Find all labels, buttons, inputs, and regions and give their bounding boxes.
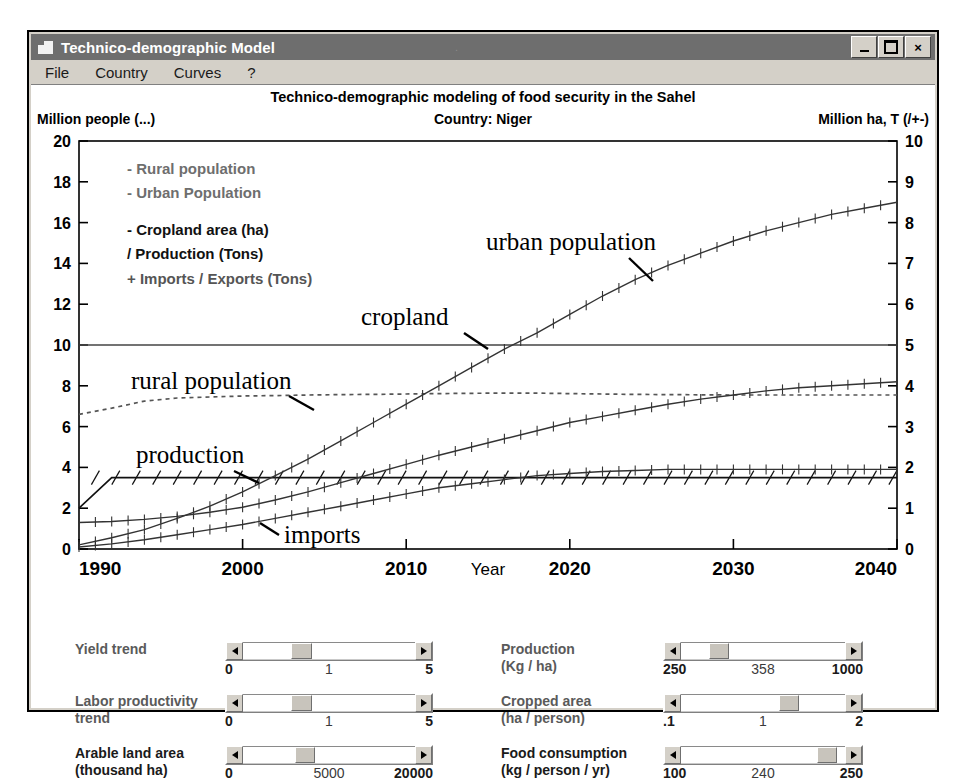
minimize-button[interactable] bbox=[851, 36, 877, 58]
slider-right-arrow-button[interactable] bbox=[415, 642, 432, 660]
control-label-line1: Production bbox=[501, 641, 663, 658]
control-label-line2: (thousand ha) bbox=[75, 762, 225, 779]
triangle-left-icon bbox=[670, 751, 676, 759]
menu-item-file[interactable]: File bbox=[45, 64, 69, 81]
slider-thumb[interactable] bbox=[295, 747, 316, 763]
y-tick-label: 8 bbox=[62, 378, 71, 395]
y2-tick-label: 1 bbox=[905, 500, 914, 517]
window-button-group: × bbox=[851, 36, 931, 58]
slider-min-label: .1 bbox=[663, 713, 675, 729]
controls-panel: Yield trend015Labor productivitytrend015… bbox=[31, 641, 939, 761]
slider[interactable] bbox=[663, 641, 863, 661]
slider-left-arrow-button[interactable] bbox=[664, 746, 681, 764]
y2-tick-label: 8 bbox=[905, 215, 914, 232]
x-tick-label: 2030 bbox=[712, 558, 754, 579]
slider[interactable] bbox=[663, 745, 863, 765]
slider-group: 2503581000 bbox=[663, 641, 863, 678]
control-group: Arable land area(thousand ha)0500020000 bbox=[75, 745, 433, 782]
x-tick-label: 2000 bbox=[221, 558, 263, 579]
control-label-line2: (kg / person / yr) bbox=[501, 762, 663, 779]
x-tick-label: 1990 bbox=[79, 558, 121, 579]
y2-tick-label: 2 bbox=[905, 459, 914, 476]
slider-right-arrow-button[interactable] bbox=[845, 694, 862, 712]
annotation-urban: urban population bbox=[486, 228, 657, 255]
slider[interactable] bbox=[225, 693, 433, 713]
y2-tick-label: 4 bbox=[905, 378, 914, 395]
annotation-imports: imports bbox=[284, 521, 360, 548]
menu-item-country[interactable]: Country bbox=[95, 64, 148, 81]
x-tick-label: 2020 bbox=[549, 558, 591, 579]
slider-track[interactable] bbox=[243, 746, 415, 764]
x-tick-label: 2010 bbox=[385, 558, 427, 579]
triangle-right-icon bbox=[851, 699, 857, 707]
slider-right-arrow-button[interactable] bbox=[415, 746, 432, 764]
slider-track[interactable] bbox=[243, 642, 415, 660]
chart-plot: 0246810121416182001234567891019902000201… bbox=[31, 131, 939, 651]
y-tick-label: 18 bbox=[53, 174, 71, 191]
annotation-rural: rural population bbox=[131, 367, 292, 394]
menu-item-help[interactable]: ? bbox=[247, 64, 255, 81]
y2-tick-label: 7 bbox=[905, 255, 914, 272]
slider-mid-label: 5000 bbox=[313, 765, 344, 781]
annotation-cropland: cropland bbox=[361, 303, 449, 330]
slider-thumb[interactable] bbox=[291, 643, 312, 659]
y-tick-label: 12 bbox=[53, 296, 71, 313]
slider-min-label: 250 bbox=[663, 661, 686, 677]
control-label-line1: Food consumption bbox=[501, 745, 663, 762]
y-tick-label: 16 bbox=[53, 215, 71, 232]
slider-max-label: 1000 bbox=[832, 661, 863, 677]
slider-scale: 015 bbox=[225, 713, 433, 730]
slider-thumb[interactable] bbox=[709, 643, 729, 659]
slider-track[interactable] bbox=[681, 694, 845, 712]
slider-left-arrow-button[interactable] bbox=[226, 694, 243, 712]
slider-max-label: 2 bbox=[855, 713, 863, 729]
slider[interactable] bbox=[663, 693, 863, 713]
slider-mid-label: 358 bbox=[751, 661, 774, 677]
slider-min-label: 0 bbox=[225, 765, 233, 781]
maximize-button[interactable] bbox=[878, 36, 904, 58]
y2-tick-label: 6 bbox=[905, 296, 914, 313]
slider-track[interactable] bbox=[243, 694, 415, 712]
control-group: Production(Kg / ha)2503581000 bbox=[501, 641, 863, 678]
y-tick-label: 20 bbox=[53, 133, 71, 150]
y2-tick-label: 10 bbox=[905, 133, 923, 150]
slider-right-arrow-button[interactable] bbox=[845, 642, 862, 660]
slider-mid-label: 240 bbox=[751, 765, 774, 781]
slider-left-arrow-button[interactable] bbox=[664, 694, 681, 712]
slider-thumb[interactable] bbox=[817, 747, 837, 763]
slider-left-arrow-button[interactable] bbox=[226, 642, 243, 660]
control-label-line2: (ha / person) bbox=[501, 710, 663, 727]
slider-thumb[interactable] bbox=[291, 695, 312, 711]
triangle-left-icon bbox=[232, 647, 238, 655]
slider-group: 015 bbox=[225, 641, 433, 678]
slider-scale: 2503581000 bbox=[663, 661, 863, 678]
slider-min-label: 100 bbox=[663, 765, 686, 781]
y-tick-label: 10 bbox=[53, 337, 71, 354]
slider-scale: 0500020000 bbox=[225, 765, 433, 782]
slider-right-arrow-button[interactable] bbox=[415, 694, 432, 712]
control-label: Production(Kg / ha) bbox=[501, 641, 663, 675]
y-tick-label: 4 bbox=[62, 459, 71, 476]
slider-right-arrow-button[interactable] bbox=[845, 746, 862, 764]
y2-tick-label: 0 bbox=[905, 541, 914, 558]
control-label-line1: Yield trend bbox=[75, 641, 225, 658]
slider-track[interactable] bbox=[681, 642, 845, 660]
slider-scale: .112 bbox=[663, 713, 863, 730]
slider[interactable] bbox=[225, 745, 433, 765]
y2-tick-label: 3 bbox=[905, 419, 914, 436]
slider-mid-label: 1 bbox=[759, 713, 767, 729]
legend-item-2: - Cropland area (ha) bbox=[127, 221, 269, 238]
slider-left-arrow-button[interactable] bbox=[664, 642, 681, 660]
control-label-line2: trend bbox=[75, 710, 225, 727]
menu-bar: File Country Curves ? bbox=[31, 60, 935, 85]
slider[interactable] bbox=[225, 641, 433, 661]
triangle-right-icon bbox=[421, 699, 427, 707]
menu-item-curves[interactable]: Curves bbox=[174, 64, 222, 81]
slider-track[interactable] bbox=[681, 746, 845, 764]
slider-thumb[interactable] bbox=[779, 695, 799, 711]
chart-svg: 0246810121416182001234567891019902000201… bbox=[31, 131, 939, 651]
close-button[interactable]: × bbox=[905, 36, 931, 58]
slider-left-arrow-button[interactable] bbox=[226, 746, 243, 764]
slider-mid-label: 1 bbox=[325, 713, 333, 729]
country-label: Country: Niger bbox=[31, 111, 935, 127]
